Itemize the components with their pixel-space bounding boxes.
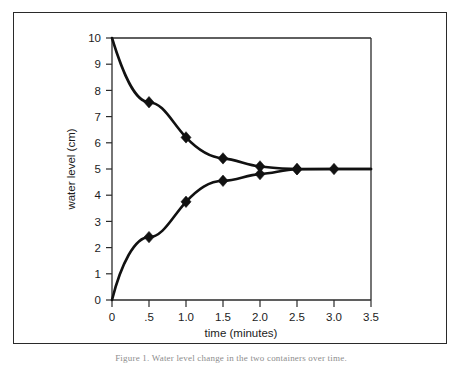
y-tick-label: 1 xyxy=(95,268,101,280)
data-point-marker xyxy=(329,163,339,174)
x-tick-label: 1.0 xyxy=(178,311,194,323)
y-tick-label: 0 xyxy=(95,294,101,306)
filling-markers xyxy=(144,164,302,243)
y-tick-label: 5 xyxy=(95,163,101,175)
x-tick-label: 2.5 xyxy=(289,311,305,323)
x-tick-label: 2.0 xyxy=(252,311,268,323)
y-tick-label: 7 xyxy=(95,111,101,123)
data-point-marker xyxy=(144,231,154,242)
data-point-marker xyxy=(292,164,302,175)
y-tick-label: 2 xyxy=(95,242,101,254)
data-point-marker xyxy=(255,168,265,179)
x-tick-label: 0 xyxy=(109,311,115,323)
x-tick-marks xyxy=(112,300,371,307)
y-tick-label: 6 xyxy=(95,137,101,149)
y-axis-title: water level (cm) xyxy=(65,128,77,210)
x-tick-label: .5 xyxy=(144,311,154,323)
water-level-chart: 0 1 2 3 4 5 6 7 8 9 10 0 .5 1.0 xyxy=(13,12,447,344)
y-tick-marks xyxy=(106,38,112,300)
data-point-marker xyxy=(218,153,228,164)
x-tick-label: 3.5 xyxy=(363,311,379,323)
y-tick-label: 8 xyxy=(95,85,101,97)
y-tick-label: 3 xyxy=(95,216,101,228)
y-tick-labels: 0 1 2 3 4 5 6 7 8 9 10 xyxy=(88,32,101,306)
x-axis-title: time (minutes) xyxy=(205,327,278,339)
x-tick-label: 3.0 xyxy=(326,311,342,323)
x-tick-labels: 0 .5 1.0 1.5 2.0 2.5 3.0 3.5 xyxy=(109,311,379,323)
y-tick-label: 10 xyxy=(88,32,101,44)
y-tick-label: 4 xyxy=(95,189,102,201)
y-tick-label: 9 xyxy=(95,58,101,70)
figure-caption: Figure 1. Water level change in the two … xyxy=(0,352,462,368)
figure-root: 0 1 2 3 4 5 6 7 8 9 10 0 .5 1.0 xyxy=(0,0,462,368)
data-point-marker xyxy=(144,97,154,108)
data-point-marker xyxy=(218,175,228,186)
x-tick-label: 1.5 xyxy=(215,311,231,323)
